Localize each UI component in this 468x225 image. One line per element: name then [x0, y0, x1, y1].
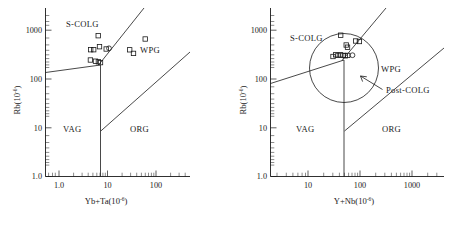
x-tick-label: 1000 [404, 181, 420, 190]
right-x-tick-labels: 10 100 1000 [304, 181, 420, 190]
field-label-wpg: WPG [381, 64, 401, 74]
x-tick-label: 10 [103, 181, 111, 190]
field-label-org: ORG [130, 124, 149, 134]
left-field-labels: S-COLG WPG VAG ORG [63, 19, 160, 134]
y-tick-label: 10 [259, 124, 267, 133]
left-x-minor-ticks [49, 173, 186, 177]
field-label-post-colg: Post-COLG [386, 85, 430, 95]
post-colg-circle [310, 34, 383, 103]
y-tick-label: 1.0 [257, 172, 267, 181]
figure-root: 1000 100 10 1.0 1.0 10 100 S-COLG WPG VA… [0, 0, 468, 225]
left-plot-svg: 1000 100 10 1.0 1.0 10 100 S-COLG WPG VA… [0, 0, 234, 225]
left-field-boundaries [46, 8, 191, 177]
left-axes [46, 8, 191, 177]
y-tick-label: 100 [255, 75, 267, 84]
panel-right-y-nb: 1000 100 10 1.0 10 100 1000 S-COLG WPG P… [234, 0, 468, 225]
right-y-minor-ticks [271, 16, 275, 166]
right-plot-svg: 1000 100 10 1.0 10 100 1000 S-COLG WPG P… [234, 0, 468, 225]
right-x-minor-ticks [277, 173, 437, 177]
field-label-s-colg: S-COLG [66, 19, 99, 29]
right-data-points [331, 33, 362, 59]
x-tick-label: 10 [304, 181, 312, 190]
left-data-points [88, 34, 147, 65]
left-x-tick-labels: 1.0 10 100 [54, 181, 162, 190]
field-label-org: ORG [382, 124, 401, 134]
y-tick-label: 1000 [251, 26, 267, 35]
y-tick-label: 10 [34, 124, 42, 133]
x-tick-label: 1.0 [54, 181, 64, 190]
y-tick-label: 1000 [26, 26, 42, 35]
y-axis-title: Rb(10-6) [12, 85, 22, 114]
right-field-labels: S-COLG WPG Post-COLG VAG ORG [290, 33, 430, 134]
y-axis-title: Rb(10-6) [238, 85, 248, 114]
x-axis-title: Y+Nb(10-6) [334, 196, 375, 206]
y-tick-label: 100 [30, 75, 42, 84]
y-tick-label: 1.0 [32, 172, 42, 181]
x-axis-title: Yb+Ta(10-6) [85, 196, 128, 206]
right-y-tick-labels: 1000 100 10 1.0 [251, 26, 267, 181]
panel-left-yb-ta: 1000 100 10 1.0 1.0 10 100 S-COLG WPG VA… [0, 0, 234, 225]
left-y-tick-labels: 1000 100 10 1.0 [26, 26, 42, 181]
left-y-minor-ticks [46, 16, 50, 166]
x-tick-label: 100 [354, 181, 366, 190]
field-label-vag: VAG [63, 124, 81, 134]
field-label-wpg: WPG [140, 45, 160, 55]
field-label-s-colg: S-COLG [290, 33, 323, 43]
x-tick-label: 100 [150, 181, 162, 190]
field-label-vag: VAG [296, 124, 314, 134]
